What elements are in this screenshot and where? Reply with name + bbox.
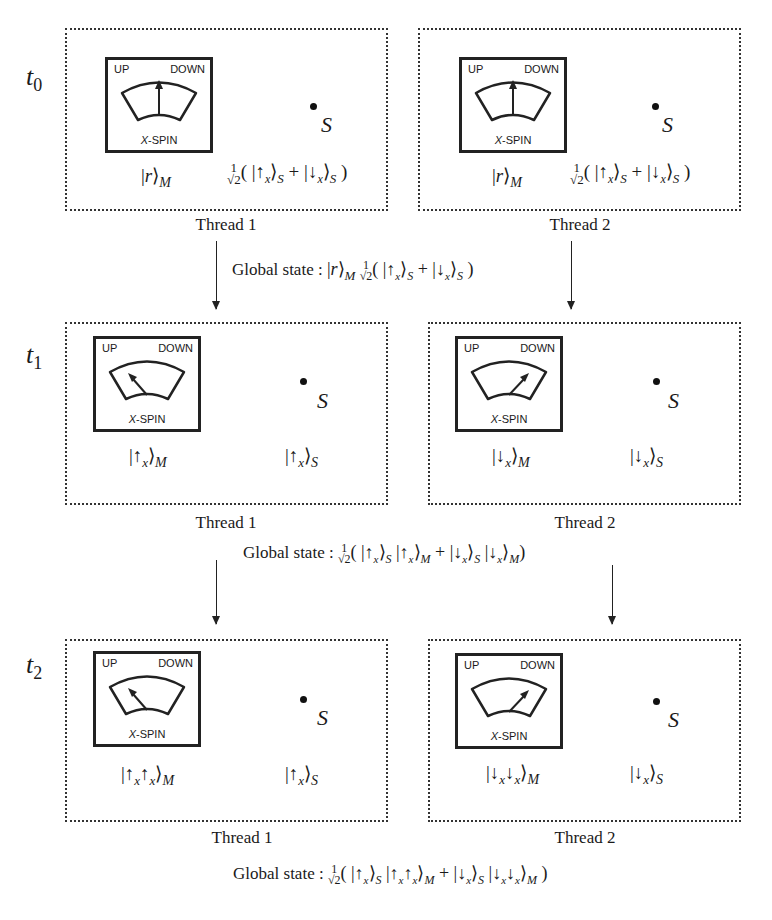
meter-state-ket: |↑x⟩M: [129, 444, 167, 471]
meter-state-ket: |↓x⟩M: [492, 444, 530, 471]
thread1-label-t2: Thread 1: [182, 828, 302, 848]
global-state-t2: Global state : 1√2( |↑x⟩S |↑x↑x⟩M + |↓x⟩…: [233, 862, 547, 888]
system-label: S: [317, 388, 328, 414]
system-label: S: [317, 705, 328, 731]
system-particle-dot: [300, 696, 307, 703]
system-label: S: [662, 112, 673, 138]
meter: UP DOWN X-SPIN: [105, 57, 213, 153]
thread2-label-t0: Thread 2: [520, 215, 640, 235]
system-particle-dot: [310, 103, 317, 110]
system-label: S: [668, 388, 679, 414]
meter: UP DOWN X-SPIN: [459, 57, 567, 153]
system-particle-dot: [653, 698, 660, 705]
meter: UP DOWN X-SPIN: [93, 336, 201, 432]
meter-state-ket: |r⟩M: [492, 164, 522, 191]
system-particle-dot: [652, 103, 659, 110]
arrow-down-icon: [216, 560, 217, 624]
global-state-t1: Global state : 1√2( |↑x⟩S |↑x⟩M + |↓x⟩S …: [243, 541, 525, 567]
meter: UP DOWN X-SPIN: [455, 653, 563, 749]
thread1-label-t0: Thread 1: [166, 215, 286, 235]
system-particle-dot: [300, 378, 307, 385]
global-state-t0: Global state : |r⟩M 1√2( |↑x⟩S + |↓x⟩S ): [232, 258, 473, 284]
thread1-panel-t0: UP DOWN X-SPIN S |r⟩M 1√2( |↑x⟩S + |↓x⟩S…: [65, 28, 388, 211]
system-state-ket: |↑x⟩S: [285, 444, 318, 471]
meter-axis-label: X-SPIN: [108, 134, 210, 146]
system-state-ket: |↓x⟩S: [630, 444, 663, 471]
thread2-label-t2: Thread 2: [525, 828, 645, 848]
system-state-superposition: 1√2( |↑x⟩S + |↓x⟩S ): [227, 160, 347, 187]
meter-state-ket: |↓x↓x⟩M: [486, 761, 539, 788]
meter-state-ket: |r⟩M: [141, 164, 171, 191]
system-state-ket: |↓x⟩S: [630, 761, 663, 788]
thread2-label-t1: Thread 2: [525, 513, 645, 533]
meter-axis-label: X-SPIN: [96, 728, 198, 740]
arrow-down-icon: [216, 241, 217, 309]
system-state-superposition: 1√2( |↑x⟩S + |↓x⟩S ): [570, 160, 690, 187]
meter: UP DOWN X-SPIN: [455, 336, 563, 432]
thread2-panel-t1: UP DOWN X-SPIN S |↓x⟩M |↓x⟩S: [428, 322, 741, 505]
thread2-panel-t2: UP DOWN X-SPIN S |↓x↓x⟩M |↓x⟩S: [428, 639, 741, 822]
thread2-panel-t0: UP DOWN X-SPIN S |r⟩M 1√2( |↑x⟩S + |↓x⟩S…: [418, 28, 741, 211]
meter-axis-label: X-SPIN: [458, 413, 560, 425]
meter: UP DOWN X-SPIN: [93, 651, 201, 747]
meter-axis-label: X-SPIN: [96, 413, 198, 425]
arrow-down-icon: [612, 565, 613, 624]
meter-state-ket: |↑x↑x⟩M: [121, 762, 174, 789]
meter-axis-label: X-SPIN: [462, 134, 564, 146]
system-label: S: [668, 707, 679, 733]
thread1-panel-t2: UP DOWN X-SPIN S |↑x↑x⟩M |↑x⟩S: [65, 639, 388, 822]
system-particle-dot: [653, 378, 660, 385]
system-label: S: [321, 112, 332, 138]
meter-axis-label: X-SPIN: [458, 730, 560, 742]
time-label-t0: t0: [26, 62, 42, 96]
thread1-label-t1: Thread 1: [166, 513, 286, 533]
thread1-panel-t1: UP DOWN X-SPIN S |↑x⟩M |↑x⟩S: [65, 322, 388, 505]
arrow-down-icon: [571, 241, 572, 309]
system-state-ket: |↑x⟩S: [285, 762, 318, 789]
time-label-t2: t2: [26, 650, 42, 684]
time-label-t1: t1: [26, 340, 42, 374]
